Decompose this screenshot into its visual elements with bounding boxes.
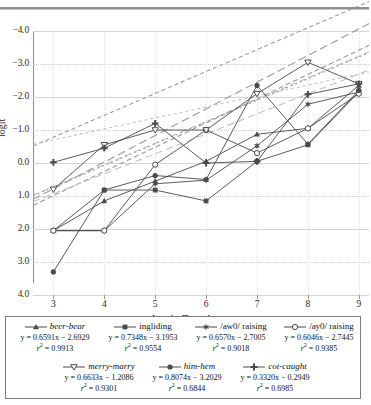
legend-label: merry-marry <box>56 361 142 372</box>
grid-line <box>33 295 369 296</box>
data-point-square <box>153 188 158 193</box>
data-point-circle-open <box>254 151 259 156</box>
legend-entry[interactable]: inglidingy = 0.7348x − 3.1953r2 = 0.9554 <box>100 321 186 353</box>
x-tick-mark <box>206 295 207 299</box>
x-tick-label: 5 <box>143 299 167 309</box>
legend-entry[interactable]: cot-caughty = 0.3320x − 0.2949r2 = 0.698… <box>232 361 318 393</box>
data-point-circle-open <box>293 324 298 329</box>
series-line <box>53 84 358 163</box>
legend-r-squared: r2 = 0.6985 <box>232 382 318 393</box>
x-tick-mark <box>53 295 54 299</box>
data-point-circle-open <box>102 228 107 233</box>
data-point-plus <box>50 159 57 166</box>
legend-label-text: merry-marry <box>88 361 135 371</box>
legend-label: /ay0/ raising <box>276 321 362 332</box>
series-overlay <box>0 12 369 292</box>
legend-equation: y = 0.8074x − 3.2029 <box>144 373 230 382</box>
legend-entry[interactable]: /aw0/ raisingy = 0.6570x − 2.7005r2 = 0.… <box>188 321 274 353</box>
trend-line <box>33 70 369 202</box>
legend-equation: y = 0.6633x − 1.2086 <box>56 373 142 382</box>
data-point-circle <box>102 187 107 192</box>
data-point-circle <box>153 173 158 178</box>
legend-r-squared: r2 = 0.9554 <box>100 342 186 353</box>
legend-label: ingliding <box>100 321 186 332</box>
top-rule-secondary <box>0 9 369 10</box>
legend-label: /aw0/ raising <box>188 321 274 332</box>
legend-entry[interactable]: beer-beary = 0.6591x − 2.6929r2 = 0.9913 <box>12 321 98 353</box>
data-point-square <box>123 325 128 330</box>
legend-key-circle-open <box>284 322 306 332</box>
legend-label: him-hem <box>144 361 230 372</box>
legend-key-circle <box>159 362 181 372</box>
data-point-triangle-down-open <box>50 187 56 192</box>
x-tick-mark <box>308 295 309 299</box>
legend-key-triangle-down-open <box>63 362 85 372</box>
legend-key-triangle <box>25 322 47 332</box>
series-line <box>53 85 358 230</box>
legend-label: cot-caught <box>232 361 318 372</box>
legend-label-text: ingliding <box>139 321 172 331</box>
legend-key-plus <box>243 362 265 372</box>
legend-label-text: /ay0/ raising <box>309 321 354 331</box>
x-tick-label: 7 <box>245 299 269 309</box>
data-point-circle <box>51 269 56 274</box>
data-point-circle <box>203 177 208 182</box>
series-line <box>53 62 358 189</box>
data-point-star <box>254 142 260 149</box>
x-tick-mark <box>257 295 258 299</box>
data-point-plus <box>101 145 108 152</box>
data-point-circle <box>356 88 361 93</box>
legend-equation: y = 0.6570x − 2.7005 <box>188 333 274 342</box>
data-point-circle <box>167 364 172 369</box>
data-point-plus <box>251 364 258 371</box>
legend-equation: y = 0.7348x − 3.1953 <box>100 333 186 342</box>
legend-equation: y = 0.6046x − 2.7445 <box>276 333 362 342</box>
legend-r-squared: r2 = 0.9385 <box>276 342 362 353</box>
x-tick-label: 4 <box>92 299 116 309</box>
data-point-circle-open <box>51 228 56 233</box>
legend-label-text: /aw0/ raising <box>220 321 267 331</box>
legend-label-text: him-hem <box>184 361 216 371</box>
legend-key-square <box>114 322 136 332</box>
plot-region: logit 4.03.02.01.00.0−1.0−2.0−3.0−4.0 34… <box>0 12 369 292</box>
x-tick-mark <box>359 295 360 299</box>
x-tick-label: 6 <box>194 299 218 309</box>
trend-line <box>33 24 369 200</box>
data-point-circle-open <box>305 126 310 131</box>
legend-label: beer-bear <box>12 321 98 332</box>
data-point-star <box>305 101 311 108</box>
x-tick-label: 8 <box>296 299 320 309</box>
x-tick-label: 3 <box>41 299 65 309</box>
legend-r-squared: r2 = 0.6844 <box>144 382 230 393</box>
x-tick-label: 9 <box>347 299 371 309</box>
chart-legend: beer-beary = 0.6591x − 2.6929r2 = 0.9913… <box>5 316 361 399</box>
legend-equation: y = 0.6591x − 2.6929 <box>12 333 98 342</box>
legend-entry[interactable]: merry-marryy = 0.6633x − 1.2086r2 = 0.93… <box>56 361 142 393</box>
legend-r-squared: r2 = 0.9301 <box>56 382 142 393</box>
data-point-plus <box>305 91 312 98</box>
legend-equation: y = 0.3320x − 0.2949 <box>232 373 318 382</box>
x-tick-mark <box>104 295 105 299</box>
x-tick-mark <box>155 295 156 299</box>
data-point-circle-open <box>153 162 158 167</box>
data-point-circle <box>305 142 310 147</box>
legend-label-text: beer-bear <box>50 321 85 331</box>
data-point-square <box>204 199 209 204</box>
legend-label-text: cot-caught <box>268 361 307 371</box>
legend-key-star <box>195 322 217 332</box>
legend-entry[interactable]: him-hemy = 0.8074x − 3.2029r2 = 0.6844 <box>144 361 230 393</box>
legend-r-squared: r2 = 0.9913 <box>12 342 98 353</box>
legend-entry[interactable]: /ay0/ raisingy = 0.6046x − 2.7445r2 = 0.… <box>276 321 362 353</box>
data-point-triangle-down-open <box>254 91 260 96</box>
trend-line <box>33 45 369 205</box>
data-point-triangle-down-open <box>305 60 311 65</box>
legend-r-squared: r2 = 0.9018 <box>188 342 274 353</box>
data-point-circle <box>254 83 259 88</box>
